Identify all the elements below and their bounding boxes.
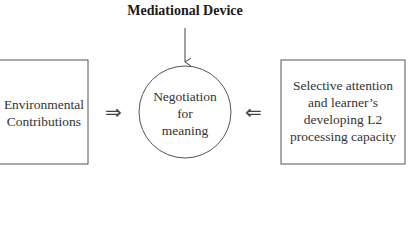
right-box-line: and learner’s xyxy=(281,94,405,111)
left-box-line: Environmental xyxy=(0,96,88,113)
left-box-text: Environmental Contributions xyxy=(0,96,88,130)
center-circle-text: Negotiation for meaning xyxy=(139,88,231,139)
right-box-line: Selective attention xyxy=(281,77,405,94)
circle-line: Negotiation xyxy=(139,88,231,105)
right-box-text: Selective attention and learner’s develo… xyxy=(281,77,405,145)
circle-line: for xyxy=(139,105,231,122)
right-box-line: processing capacity xyxy=(281,128,405,145)
right-box-line: developing L2 xyxy=(281,111,405,128)
circle-line: meaning xyxy=(139,122,231,139)
left-box-line: Contributions xyxy=(0,113,88,130)
left-double-arrow-icon: ⇐ xyxy=(245,100,262,124)
right-double-arrow-icon: ⇒ xyxy=(105,100,122,124)
